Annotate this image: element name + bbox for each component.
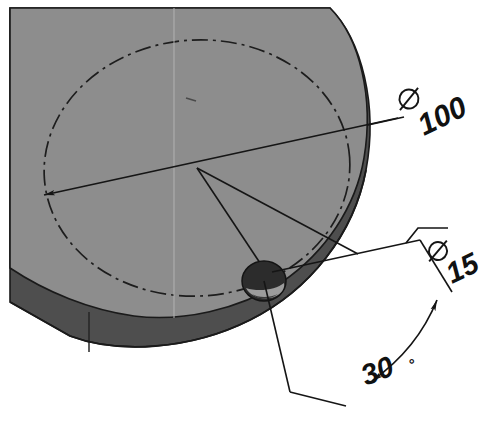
angle30-label: 30 [356, 350, 398, 392]
engineering-drawing-svg: 100 15 [0, 0, 502, 423]
solid-body [10, 8, 370, 352]
degree-symbol-icon: ° [407, 355, 419, 373]
dia100-label: 100 [412, 90, 472, 142]
through-hole-group [242, 261, 290, 392]
angle30-ray-lower [290, 392, 346, 406]
technical-drawing-canvas: 100 15 [0, 0, 502, 423]
dia100-leader-shelf [368, 117, 404, 125]
